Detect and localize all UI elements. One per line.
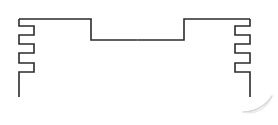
top-rail-left-segment (19, 19, 138, 40)
right-castellated-edge (235, 19, 250, 97)
technical-outline-svg (0, 0, 278, 125)
left-castellated-edge (19, 19, 34, 97)
drawing-canvas (0, 0, 278, 125)
top-rail-right-segment (138, 19, 251, 40)
